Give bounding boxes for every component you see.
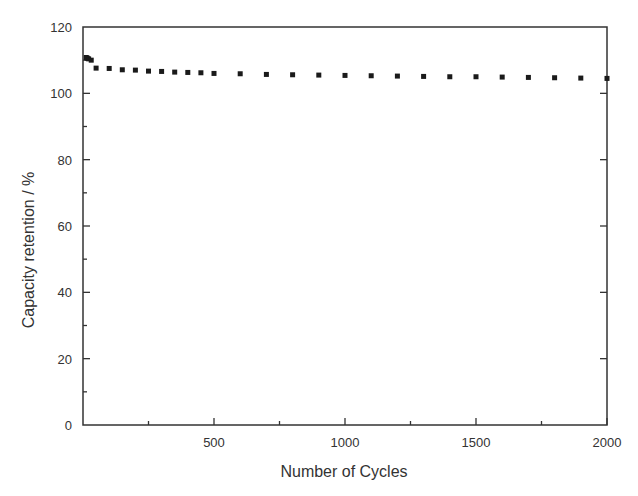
capacity-retention-chart: 500100015002000 020406080100120 Number o… — [0, 0, 638, 496]
data-point-marker — [500, 75, 505, 80]
data-point-marker — [526, 75, 531, 80]
data-point-marker — [133, 68, 138, 73]
data-point-marker — [198, 70, 203, 75]
y-tick-label: 100 — [50, 86, 72, 101]
data-point-marker — [447, 74, 452, 79]
data-point-marker — [172, 70, 177, 75]
data-point-marker — [107, 66, 112, 71]
y-tick-label: 80 — [58, 153, 72, 168]
data-point-marker — [146, 69, 151, 74]
data-point-marker — [421, 74, 426, 79]
plot-frame — [83, 27, 607, 425]
y-tick-label: 20 — [58, 352, 72, 367]
data-point-marker — [605, 76, 610, 81]
y-tick-label: 120 — [50, 20, 72, 35]
data-point-marker — [369, 73, 374, 78]
data-point-marker — [185, 70, 190, 75]
data-point-marker — [120, 67, 125, 72]
y-axis-tick-labels: 020406080100120 — [50, 20, 72, 433]
x-tick-label: 1500 — [462, 435, 491, 450]
data-point-marker — [343, 73, 348, 78]
data-point-marker — [238, 71, 243, 76]
data-series-capacity-retention — [84, 55, 610, 81]
data-point-marker — [212, 71, 217, 76]
y-tick-label: 40 — [58, 285, 72, 300]
y-tick-label: 0 — [65, 418, 72, 433]
data-point-marker — [578, 76, 583, 81]
plot-border — [83, 27, 607, 425]
x-tick-label: 1000 — [331, 435, 360, 450]
data-point-marker — [316, 73, 321, 78]
data-point-marker — [94, 66, 99, 71]
data-point-marker — [290, 72, 295, 77]
data-point-marker — [474, 74, 479, 79]
axis-ticks — [83, 60, 607, 425]
data-point-marker — [159, 69, 164, 74]
data-point-marker — [395, 74, 400, 79]
x-tick-label: 500 — [203, 435, 225, 450]
y-tick-label: 60 — [58, 219, 72, 234]
x-axis-title: Number of Cycles — [280, 463, 407, 480]
data-point-marker — [264, 72, 269, 77]
y-axis-title: Capacity retention / % — [20, 172, 37, 329]
x-axis-tick-labels: 500100015002000 — [203, 435, 621, 450]
x-tick-label: 2000 — [593, 435, 622, 450]
data-point-marker — [552, 75, 557, 80]
data-point-marker — [89, 58, 94, 63]
